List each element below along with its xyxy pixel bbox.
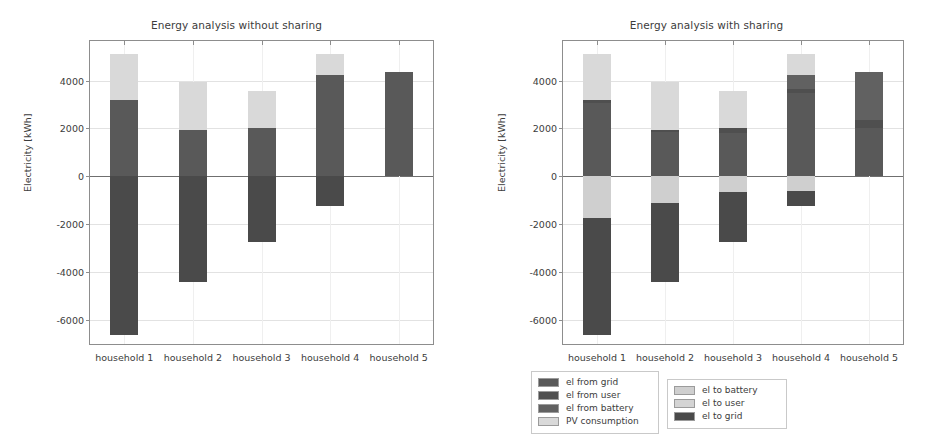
bar-segment [651,82,679,130]
bar-segment [787,75,815,89]
legend-from: el from gridel from userel from batteryP… [531,371,659,434]
legend-swatch-icon [674,386,695,395]
bar-segment [787,89,815,93]
chart-title-left: Energy analysis without sharing [0,19,473,31]
y-tick-mark [559,272,563,273]
y-tick-label: 0 [551,171,557,182]
legend-to: el to batteryel to userel to grid [667,379,787,429]
bar-segment [787,176,815,190]
y-tick-mark [559,224,563,225]
bar-segment [385,72,413,177]
bar-stack [583,41,611,344]
y-tick-label: -6000 [56,315,84,326]
y-tick-label: 2000 [533,123,557,134]
legend-entry: el to battery [674,384,779,397]
bar-segment [787,54,815,75]
legend-swatch-icon [674,399,695,408]
bar-segment [316,176,344,206]
bar-segment [787,191,815,207]
bar-segment [651,176,679,202]
bar-stack [787,41,815,344]
bar-segment [583,176,611,218]
x-tick-label: household 3 [704,352,762,363]
legend-label: el from battery [566,404,634,413]
bar-segment [110,176,138,335]
legend-entry: el from grid [538,376,651,389]
legend-entry: el from user [538,389,651,402]
y-tick-label: -2000 [529,219,557,230]
legend-swatch-icon [674,412,695,421]
legend-swatch-icon [538,404,559,413]
x-tick-label: household 2 [636,352,694,363]
bar-stack [179,41,207,344]
bar-segment [719,91,747,128]
bar-segment [583,100,611,103]
y-tick-label: -2000 [56,219,84,230]
y-tick-mark [86,128,90,129]
bar-stack [248,41,276,344]
x-tick-label: household 2 [164,352,222,363]
legend-swatch-icon [538,391,559,400]
bar-segment [248,128,276,176]
y-tick-label: 4000 [60,75,84,86]
legend-entry: PV consumption [538,415,651,428]
y-tick-label: 4000 [533,75,557,86]
bar-segment [179,130,207,177]
bar-segment [719,176,747,192]
legend-swatch-icon [538,417,559,426]
bar-segment [651,130,679,132]
legend-label: el to battery [702,386,758,395]
bar-segment [583,103,611,176]
chart-panel-with-sharing: Energy analysis with sharing Electricity… [470,0,943,370]
bar-segment [651,132,679,176]
bar-segment [583,218,611,335]
plot-area-right: 400020000-2000-4000-6000household 1house… [562,40,904,345]
y-tick-mark [559,128,563,129]
y-tick-mark [86,176,90,177]
chart-title-right: Energy analysis with sharing [470,19,943,31]
bar-segment [248,176,276,242]
chart-panel-without-sharing: Energy analysis without sharing Electric… [0,0,473,370]
legend-entry: el from battery [538,402,651,415]
x-tick-label: household 3 [232,352,290,363]
y-tick-label: 0 [78,171,84,182]
bar-stack [385,41,413,344]
y-tick-label: -4000 [529,267,557,278]
bar-stack [855,41,883,344]
bar-segment [110,100,138,176]
bar-segment [316,75,344,176]
y-tick-label: -6000 [529,315,557,326]
legend-entry: el to user [674,397,779,410]
y-axis-label-left: Electricity [kWh] [22,113,33,192]
y-tick-mark [86,224,90,225]
bar-segment [316,54,344,75]
y-tick-mark [86,272,90,273]
y-axis-label-right: Electricity [kWh] [496,113,507,192]
x-tick-label: household 4 [301,352,359,363]
legend-label: el to user [702,399,744,408]
legend-label: el to grid [702,412,742,421]
bar-segment [719,133,747,176]
bar-segment [110,54,138,100]
bar-stack [651,41,679,344]
bar-segment [583,54,611,100]
bar-segment [651,203,679,282]
x-tick-label: household 5 [840,352,898,363]
bar-segment [719,128,747,133]
x-tick-label: household 5 [370,352,428,363]
x-tick-label: household 1 [95,352,153,363]
x-tick-label: household 1 [568,352,626,363]
legend-label: PV consumption [566,417,639,426]
y-tick-mark [559,81,563,82]
legend-label: el from user [566,391,620,400]
bar-segment [248,91,276,128]
y-tick-mark [86,81,90,82]
y-tick-label: 2000 [60,123,84,134]
bar-segment [855,72,883,120]
bar-segment [719,192,747,242]
plot-area-left: 400020000-2000-4000-6000household 1house… [89,40,434,345]
bar-segment [179,82,207,130]
bar-segment [179,176,207,281]
y-tick-mark [559,176,563,177]
legend-swatch-icon [538,378,559,387]
